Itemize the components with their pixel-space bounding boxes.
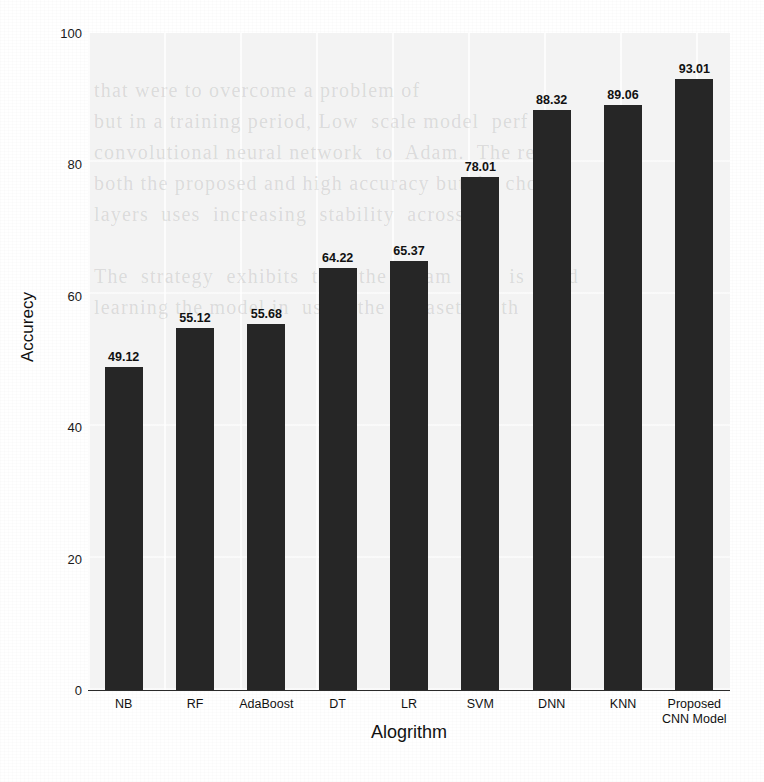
bar-rect [247,324,285,690]
y-tick-100: 100 [36,26,82,41]
bar-value-label: 64.22 [322,251,353,265]
x-tick-line: NB [115,697,132,711]
x-tick-line: KNN [610,697,636,711]
bar-rect [604,105,642,690]
bar-knn: 89.06 [604,33,642,690]
bar-rect [390,261,428,690]
bar-value-label: 65.37 [393,244,424,258]
bar-dt: 64.22 [319,33,357,690]
bar-nb: 49.12 [105,33,143,690]
y-tick-0: 0 [36,683,82,698]
bar-chart-figure: that were to overcome a problem of but i… [0,0,764,782]
x-tick-line: LR [401,697,417,711]
bar-value-label: 49.12 [108,350,139,364]
bar-value-label: 89.06 [607,88,638,102]
y-tick-80: 80 [36,157,82,172]
bar-lr: 65.37 [390,33,428,690]
bar-rect [461,177,499,690]
bar-value-label: 88.32 [536,93,567,107]
x-axis-line [88,690,730,691]
bar-rect [675,79,713,690]
x-tick-line: SVM [467,697,494,711]
x-axis-title: Alogrithm [88,722,730,743]
y-axis-title: Accurecy [18,257,38,397]
bar-adaboost: 55.68 [247,33,285,690]
bar-rect [105,367,143,690]
bar-value-label: 55.68 [251,307,282,321]
y-tick-40: 40 [36,420,82,435]
x-tick-line: AdaBoost [239,697,293,711]
bar-rf: 55.12 [176,33,214,690]
bar-proposed-cnn-model: 93.01 [675,33,713,690]
bar-rect [319,268,357,690]
bar-rect [176,328,214,690]
x-tick-line: DT [329,697,346,711]
bar-value-label: 93.01 [679,62,710,76]
x-tick-line: RF [187,697,204,711]
y-tick-60: 60 [36,288,82,303]
bar-value-label: 78.01 [465,160,496,174]
x-tick-line: DNN [538,697,565,711]
x-tick-line: Proposed [668,697,722,711]
y-tick-20: 20 [36,551,82,566]
plot-area: that were to overcome a problem of but i… [88,33,730,690]
bar-dnn: 88.32 [533,33,571,690]
bar-svm: 78.01 [461,33,499,690]
bar-value-label: 55.12 [179,311,210,325]
bar-rect [533,110,571,690]
